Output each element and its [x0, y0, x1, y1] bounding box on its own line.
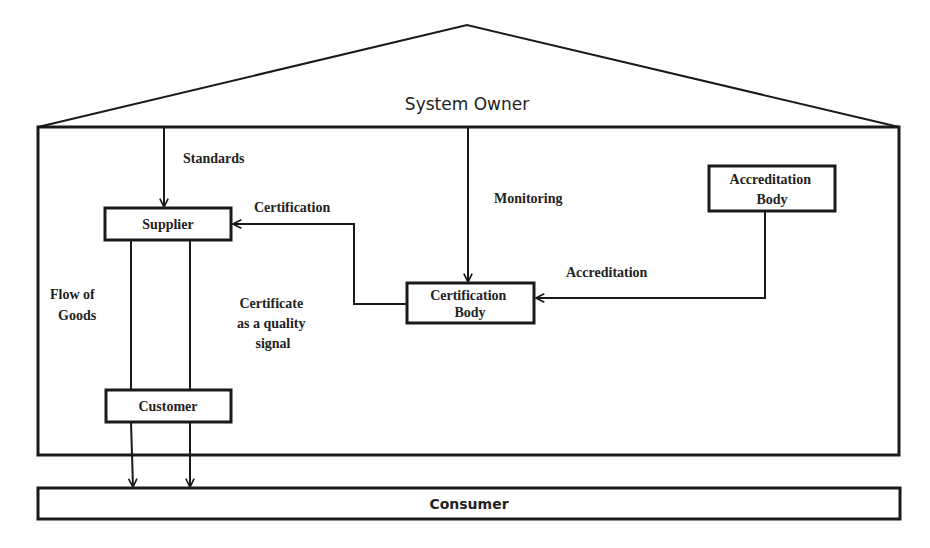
- accreditation-label: Accreditation: [566, 265, 648, 280]
- system-owner-diagram: System Owner Standards Monitoring Certif…: [0, 0, 930, 548]
- accreditation-body-node: Accreditation Body: [709, 166, 835, 211]
- certification-body-line-2: Body: [454, 305, 485, 320]
- supplier-label: Supplier: [142, 217, 193, 232]
- flow-of-goods-label: Flow of Goods: [50, 287, 98, 323]
- customer-label: Customer: [138, 399, 197, 414]
- supplier-node: Supplier: [105, 208, 231, 240]
- flow-of-goods-line-2: Goods: [58, 308, 97, 323]
- system-owner-label: System Owner: [405, 94, 529, 114]
- goods-to-consumer-arrow: [131, 422, 133, 487]
- customer-node: Customer: [106, 390, 231, 422]
- accreditation-body-line-2: Body: [756, 192, 787, 207]
- certificate-signal-line-2: as a quality: [237, 316, 305, 331]
- certification-arrow: [233, 224, 407, 304]
- accreditation-body-line-1: Accreditation: [730, 172, 812, 187]
- certificate-signal-line-3: signal: [255, 336, 290, 351]
- consumer-node: Consumer: [38, 488, 900, 519]
- monitoring-label: Monitoring: [494, 191, 562, 206]
- flow-of-goods-line-1: Flow of: [50, 287, 95, 302]
- standards-label: Standards: [183, 151, 245, 166]
- certificate-signal-line-1: Certificate: [239, 296, 303, 311]
- consumer-label: Consumer: [429, 496, 508, 512]
- certification-label: Certification: [254, 200, 330, 215]
- certification-body-node: Certification Body: [407, 283, 534, 323]
- certificate-signal-label: Certificate as a quality signal: [237, 296, 309, 351]
- accreditation-arrow: [536, 211, 765, 298]
- certification-body-line-1: Certification: [430, 288, 506, 303]
